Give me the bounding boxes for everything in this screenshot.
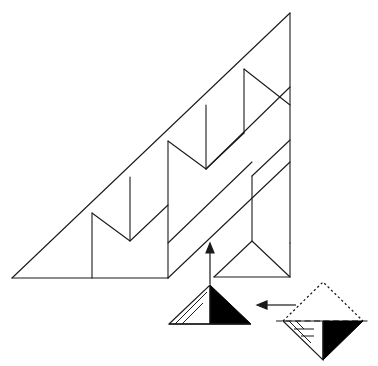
canvas-background xyxy=(0,0,378,366)
geometric-diagram xyxy=(0,0,378,366)
diagram-canvas xyxy=(0,0,378,366)
